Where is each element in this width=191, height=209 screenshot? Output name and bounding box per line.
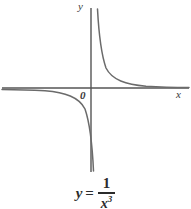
fraction-numerator: 1 [100, 176, 114, 192]
equation-fraction: 1 x3 [98, 176, 116, 208]
y-axis-label: y [78, 1, 83, 12]
equation-caption: y = 1 x3 [0, 176, 191, 208]
denominator-base: x [101, 195, 108, 208]
function-graph-figure: y x 0 y = 1 x3 [0, 0, 191, 208]
denominator-exponent: 3 [108, 194, 113, 204]
x-axis-label: x [176, 89, 181, 100]
origin-label: 0 [80, 90, 86, 101]
equation-left-side: y [76, 185, 83, 202]
curve-branch-negative [2, 89, 94, 171]
fraction-denominator: x3 [98, 194, 116, 209]
curve-branch-positive [98, 9, 190, 88]
equation-equals-sign: = [85, 185, 94, 202]
